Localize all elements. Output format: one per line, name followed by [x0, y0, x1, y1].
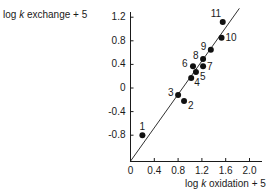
point-label: 3 [168, 88, 174, 98]
point-label: 9 [201, 42, 207, 52]
point-label: 2 [188, 101, 194, 111]
y-tick-label: 0.4 [90, 59, 126, 69]
y-tick-label: 0.8 [90, 36, 126, 46]
x-tick-label: 1.6 [214, 166, 238, 176]
regression-line [131, 8, 240, 161]
xlabel-prefix: log [185, 178, 201, 189]
point-label: 4 [194, 78, 200, 88]
y-tick-label: -0.8 [90, 130, 126, 140]
data-point [193, 69, 199, 75]
point-label: 6 [182, 59, 188, 69]
y-tick-label: 1.2 [90, 12, 126, 22]
x-tick-label: 0.4 [142, 166, 166, 176]
data-point [139, 132, 145, 138]
ylabel-suffix: exchange + 5 [24, 9, 87, 20]
data-point [220, 19, 226, 25]
data-point [200, 63, 206, 69]
data-point [200, 56, 206, 62]
data-point [181, 98, 187, 104]
y-tick-label: -0.4 [90, 107, 126, 117]
y-tick-label: 0 [90, 83, 126, 93]
xlabel-suffix: oxidation + 5 [206, 178, 266, 189]
x-tick-label: 2.0 [238, 166, 262, 176]
data-point [219, 35, 225, 41]
point-label: 8 [193, 51, 199, 61]
x-tick-label: 1.2 [190, 166, 214, 176]
x-tick-label: 0.8 [166, 166, 190, 176]
ylabel-prefix: log [3, 9, 19, 20]
point-label: 11 [211, 9, 221, 19]
point-label: 5 [200, 72, 206, 82]
y-axis-label: log k exchange + 5 [3, 9, 87, 20]
point-label: 7 [207, 62, 213, 72]
x-axis-label: log k oxidation + 5 [185, 178, 266, 189]
data-points [139, 19, 225, 138]
data-point [175, 92, 181, 98]
point-label: 1 [139, 122, 145, 132]
x-tick-label: 0 [119, 166, 143, 176]
data-point [208, 47, 214, 53]
point-label: 10 [226, 33, 237, 43]
data-point [190, 63, 196, 69]
